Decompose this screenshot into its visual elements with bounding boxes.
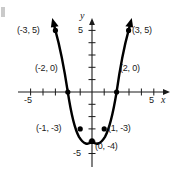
point-label-neg2-0: (-2, 0) xyxy=(35,64,58,73)
point-marker xyxy=(114,89,119,94)
point-marker xyxy=(126,28,131,33)
x-tick-label-neg5: -5 xyxy=(24,96,32,105)
y-tick-label-neg5: -5 xyxy=(73,149,81,158)
x-tick-label-5: 5 xyxy=(149,96,154,105)
point-label-3-5: (3, 5) xyxy=(132,26,152,35)
point-label-1-neg3: (1, -3) xyxy=(108,124,131,133)
x-axis-label: x xyxy=(161,95,165,105)
parabola-graph-figure: y x -5 5 5 -5 (-3, 5) (3, 5) (-2, 0) (2,… xyxy=(0,0,176,171)
point-marker xyxy=(78,126,83,131)
point-label-2-0: (2, 0) xyxy=(120,64,140,73)
y-tick-label-5: 5 xyxy=(78,26,83,35)
x-axis xyxy=(18,89,170,95)
point-marker xyxy=(102,126,107,131)
point-marker xyxy=(53,28,58,33)
point-label-neg1-neg3: (-1, -3) xyxy=(36,124,61,133)
y-axis-label: y xyxy=(80,11,84,21)
point-label-neg3-5: (-3, 5) xyxy=(17,26,40,35)
point-label-0-neg4: (0, -4) xyxy=(95,142,118,151)
point-marker xyxy=(65,89,70,94)
